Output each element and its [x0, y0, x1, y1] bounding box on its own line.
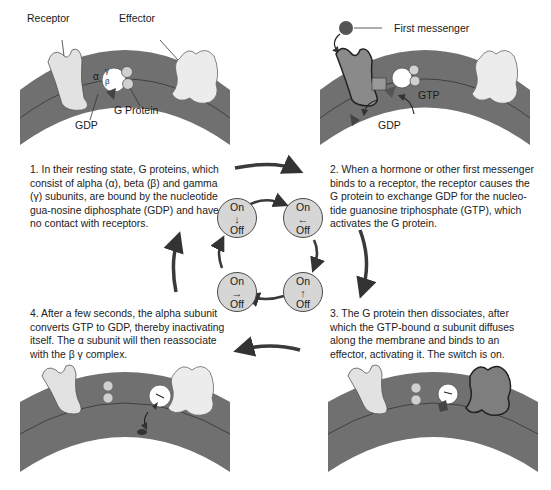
switch-on-label: On	[284, 276, 322, 287]
gamma-subunit	[411, 395, 421, 405]
beta-subunit	[103, 381, 113, 391]
switch-on-label: On	[284, 202, 322, 213]
switch-bottom-right: On ↑ Off	[283, 272, 323, 312]
switch-off-label: Off	[218, 299, 256, 310]
switch-top-right: On ← Off	[283, 198, 323, 238]
gamma-subunit	[103, 393, 113, 403]
activated-effector	[466, 366, 511, 415]
switch-on-label: On	[218, 202, 256, 213]
switch-off-label: Off	[218, 225, 256, 236]
switch-bottom-left: On → Off	[217, 272, 257, 312]
phosphate	[137, 429, 147, 435]
panel-3-membrane-diagram	[328, 362, 538, 472]
switch-top-left: On ↓ Off	[217, 198, 257, 238]
alpha-subunit-with-timer	[438, 384, 458, 404]
switch-off-label: Off	[284, 225, 322, 236]
panel-4-membrane-diagram	[20, 362, 230, 472]
switch-on-label: On	[218, 276, 256, 287]
beta-subunit	[411, 383, 421, 393]
effector-protein	[168, 366, 214, 415]
switch-off-label: Off	[284, 299, 322, 310]
